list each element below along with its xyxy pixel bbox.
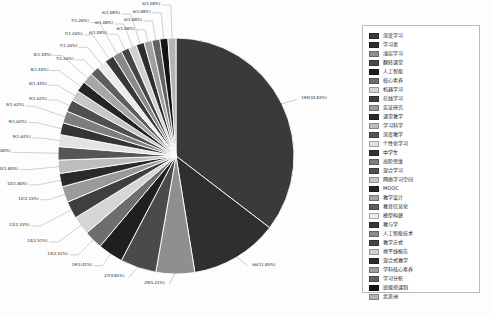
legend-label: 在线学习 — [383, 96, 403, 101]
legend-item[interactable]: 学习者 — [369, 40, 475, 49]
leader-line — [169, 273, 175, 284]
legend-swatch-icon — [369, 240, 379, 246]
legend-item[interactable]: 班级授课制 — [369, 283, 475, 292]
legend-item[interactable]: 深度教学 — [369, 130, 475, 139]
leader-line — [12, 152, 59, 153]
legend-item[interactable]: 教与学 — [369, 220, 475, 229]
slice-value-label: 66(11.85%) — [252, 263, 275, 267]
legend-item[interactable]: 人工智能 — [369, 67, 475, 76]
legend-item[interactable]: 人工智能技术 — [369, 229, 475, 238]
slice-value-label: 8(1.44%) — [33, 53, 51, 57]
legend-swatch-icon — [369, 168, 379, 174]
legend-item[interactable]: 高阶思维 — [369, 157, 475, 166]
leader-line — [49, 100, 71, 106]
legend-item[interactable]: 课堂教学 — [369, 112, 475, 121]
legend-label: 班级授课制 — [383, 285, 408, 290]
legend-label: 翻转课堂 — [383, 60, 403, 65]
legend-item[interactable]: 北美洲 — [369, 292, 475, 301]
legend-item[interactable]: 个性化学习 — [369, 139, 475, 148]
legend-label: 教学设计 — [383, 195, 403, 200]
legend-swatch-icon — [369, 132, 379, 138]
slice-value-label: 8(1.44%) — [29, 82, 47, 86]
slice-value-label: 10(1.80%) — [7, 182, 28, 186]
legend-label: 深度学习 — [383, 33, 403, 38]
legend-swatch-icon — [369, 285, 379, 291]
legend-swatch-icon — [369, 51, 379, 57]
slice-value-label: 7(1.26%) — [56, 57, 74, 61]
slice-value-label: 27(4.85%) — [104, 274, 125, 278]
legend-label: 人工智能技术 — [383, 231, 413, 236]
legend-item[interactable]: 中学生 — [369, 148, 475, 157]
legend-label: 实证研究 — [383, 105, 403, 110]
slice-value-label: 8(1.44%) — [30, 68, 48, 72]
leader-line — [49, 85, 76, 96]
legend-swatch-icon — [369, 294, 379, 300]
legend-item[interactable]: 核心素养 — [369, 76, 475, 85]
legend-swatch-icon — [369, 150, 379, 156]
leader-line — [90, 23, 117, 55]
leader-line — [31, 210, 72, 227]
legend-swatch-icon — [369, 141, 379, 147]
legend-item[interactable]: 实证研究 — [369, 103, 475, 112]
slice-value-label: 6(1.08%) — [102, 11, 120, 15]
leader-line — [281, 99, 297, 104]
legend-swatch-icon — [369, 222, 379, 228]
leader-line — [29, 180, 62, 185]
legend-item[interactable]: 教学方式 — [369, 238, 475, 247]
legend-item[interactable]: 学习科学 — [369, 121, 475, 130]
legend-swatch-icon — [369, 42, 379, 48]
legend-item[interactable]: 地平线报告 — [369, 247, 475, 256]
legend-label: 中学生 — [383, 150, 398, 155]
slice-value-label: 19(3.41%) — [72, 263, 93, 267]
leader-line — [49, 225, 81, 242]
legend-label: 机器学习 — [383, 87, 403, 92]
legend-item[interactable]: 机器学习 — [369, 85, 475, 94]
leader-line — [152, 13, 164, 40]
legend-item[interactable]: 学科核心素养 — [369, 265, 475, 274]
legend-item[interactable]: 网络学习空间 — [369, 175, 475, 184]
slice-value-label: 9(1.62%) — [6, 103, 24, 107]
slice-value-label: 6(1.08%) — [89, 31, 107, 35]
legend-label: 地平线报告 — [383, 249, 408, 254]
legend-swatch-icon — [369, 276, 379, 282]
legend-swatch-icon — [369, 186, 379, 192]
legend-label: 学习者 — [383, 42, 398, 47]
legend-label: 混合式教学 — [383, 258, 408, 263]
legend-swatch-icon — [369, 123, 379, 129]
legend-label: 学习分析 — [383, 276, 403, 281]
legend-item[interactable]: 教学设计 — [369, 193, 475, 202]
legend-swatch-icon — [369, 231, 379, 237]
legend-label: 网络学习空间 — [383, 177, 413, 182]
legend-swatch-icon — [369, 204, 379, 210]
leader-line — [28, 123, 62, 129]
legend-label: 北美洲 — [383, 294, 398, 299]
legend-item[interactable]: 深度学习 — [369, 31, 475, 40]
legend-item[interactable]: 翻转课堂 — [369, 58, 475, 67]
legend-label: MOOC — [383, 186, 399, 191]
legend-label: 高阶思维 — [383, 159, 403, 164]
legend-item[interactable]: 浅层学习 — [369, 49, 475, 58]
legend-swatch-icon — [369, 159, 379, 165]
legend-swatch-icon — [369, 96, 379, 102]
legend-item[interactable]: 混合学习 — [369, 166, 475, 175]
legend-swatch-icon — [369, 33, 379, 39]
legend-item[interactable]: 在线学习 — [369, 94, 475, 103]
legend-item[interactable]: MOOC — [369, 184, 475, 193]
slice-value-label: 9(1.62%) — [29, 97, 47, 101]
legend-item[interactable]: 教育信息化 — [369, 202, 475, 211]
slice-value-label: 14(2.51%) — [47, 252, 68, 256]
legend-swatch-icon — [369, 69, 379, 75]
legend-item[interactable]: 模型构建 — [369, 211, 475, 220]
slice-value-label: 7(1.26%) — [59, 44, 77, 48]
legend-swatch-icon — [369, 105, 379, 111]
legend-label: 学习科学 — [383, 123, 403, 128]
slice-value-label: 9(1.62%) — [8, 120, 26, 124]
slice-value-label: 6(1.08%) — [124, 18, 142, 22]
legend-item[interactable]: 混合式教学 — [369, 256, 475, 265]
legend-label: 教育信息化 — [383, 204, 408, 209]
leader-line — [79, 47, 103, 65]
legend-label: 人工智能 — [383, 69, 403, 74]
legend-swatch-icon — [369, 258, 379, 264]
legend-item[interactable]: 学习分析 — [369, 274, 475, 283]
legend-label: 教与学 — [383, 222, 398, 227]
